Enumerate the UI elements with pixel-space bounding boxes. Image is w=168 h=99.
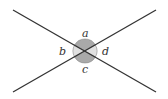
angle-b-label: b	[59, 45, 66, 58]
angle-c-label: c	[82, 63, 88, 76]
diagram-svg: a b c d	[0, 0, 168, 99]
angle-a-label: a	[82, 27, 89, 40]
angle-d-label: d	[102, 45, 109, 58]
intersecting-lines-diagram: a b c d	[0, 0, 168, 99]
